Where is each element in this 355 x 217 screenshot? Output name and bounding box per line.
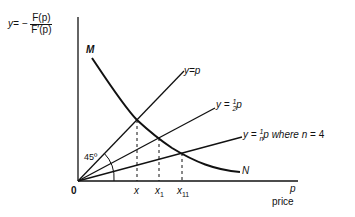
tick-label-x11: x11	[177, 186, 189, 198]
label-suffix: p where	[263, 129, 299, 140]
curve-label-m: M	[86, 45, 94, 55]
line-y-eq-p	[78, 71, 184, 181]
tick-label-x1: x1	[155, 186, 164, 198]
line-y-half-p	[78, 108, 215, 181]
curve-m-n	[92, 58, 240, 172]
n-label: n	[302, 129, 308, 140]
curve-label-n: N	[242, 166, 249, 176]
tick-main: x	[134, 185, 139, 196]
x-axis-symbol: p	[290, 184, 296, 194]
y-axis-denominator: F′(p)	[30, 25, 52, 36]
y-axis-numerator: F(p)	[30, 13, 52, 25]
label-prefix: y =	[243, 129, 257, 140]
n-value: = 4	[310, 129, 324, 140]
tick-label-x: x	[134, 186, 139, 196]
label-prefix: y =	[216, 99, 230, 110]
line-y-over-n-p	[78, 137, 242, 181]
angle-label: 45º	[84, 153, 97, 162]
x-axis-label: price	[272, 197, 294, 207]
y-axis-label: y= − F(p) F′(p)	[8, 13, 52, 35]
label-y-over-n-p: y = 1np where n = 4	[243, 128, 324, 142]
label-y-half-p: y = 12p	[216, 98, 242, 112]
tick-sub: 11	[182, 191, 189, 198]
label-y-eq-p: y=p	[184, 66, 200, 76]
origin-label: 0	[71, 186, 77, 196]
label-suffix: p	[236, 99, 242, 110]
y-axis-fraction: F(p) F′(p)	[30, 13, 52, 35]
tick-sub: 1	[160, 191, 164, 198]
y-axis-prefix: y= −	[8, 18, 27, 29]
